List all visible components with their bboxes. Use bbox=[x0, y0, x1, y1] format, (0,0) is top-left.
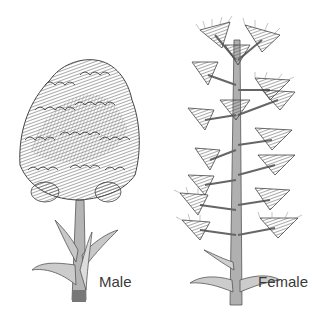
male-label: Male bbox=[99, 273, 132, 290]
female-label: Female bbox=[258, 273, 308, 290]
female-plant bbox=[174, 16, 302, 305]
male-plant bbox=[20, 60, 139, 302]
